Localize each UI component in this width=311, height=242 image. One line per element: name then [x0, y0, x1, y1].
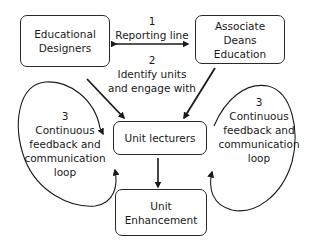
- node-label-line: Unit lecturers: [125, 131, 196, 145]
- node-label-line: Enhancement: [125, 213, 198, 227]
- edge-text: Reporting line: [112, 28, 192, 42]
- node-label-line: Associate: [215, 19, 265, 33]
- edge-text: Identify units: [102, 67, 202, 81]
- edge-text: Continuous: [22, 123, 108, 137]
- node-educational-designers: Educational Designers: [20, 15, 110, 67]
- edge-text: feedback and: [215, 123, 303, 137]
- edge-number: 3: [215, 95, 303, 109]
- node-label-line: Deans: [223, 33, 256, 47]
- edge-text: feedback and: [22, 137, 108, 151]
- node-label-line: Educational: [34, 27, 96, 41]
- edge-label-identify: 2 Identify units and engage with: [102, 53, 202, 95]
- edge-text: loop: [215, 151, 303, 165]
- edge-text: communication: [215, 137, 303, 151]
- edge-number: 2: [102, 53, 202, 67]
- node-label-line: Unit: [150, 199, 171, 213]
- edge-number: 1: [112, 14, 192, 28]
- node-label-line: Education: [214, 47, 266, 61]
- edge-text: and engage with: [102, 81, 202, 95]
- node-unit-enhancement: Unit Enhancement: [115, 189, 207, 236]
- edge-number: 3: [22, 109, 108, 123]
- node-label-line: Designers: [39, 41, 92, 55]
- edge-text: Continuous: [215, 109, 303, 123]
- edge-text: communication: [22, 151, 108, 165]
- node-associate-deans-education: Associate Deans Education: [195, 15, 285, 64]
- edge-label-loop-right: 3 Continuous feedback and communication …: [215, 95, 303, 165]
- edge-text: loop: [22, 165, 108, 179]
- edge-label-loop-left: 3 Continuous feedback and communication …: [22, 109, 108, 179]
- edge-label-reporting: 1 Reporting line: [112, 14, 192, 42]
- node-unit-lecturers: Unit lecturers: [113, 121, 207, 155]
